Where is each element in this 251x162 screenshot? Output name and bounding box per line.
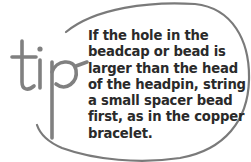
tip-line: If the hole in the: [88, 28, 251, 44]
tip-line: first, as in the copper: [88, 109, 251, 125]
tip-line: a small spacer bead: [88, 93, 251, 109]
tip-callout: If the hole in the beadcap or bead is la…: [0, 0, 251, 162]
tip-line: larger than the head: [88, 61, 251, 77]
tip-line: bracelet.: [88, 126, 251, 142]
tip-body-text: If the hole in the beadcap or bead is la…: [88, 28, 251, 142]
tip-line: beadcap or bead is: [88, 44, 251, 60]
tip-line: of the headpin, string: [88, 77, 251, 93]
